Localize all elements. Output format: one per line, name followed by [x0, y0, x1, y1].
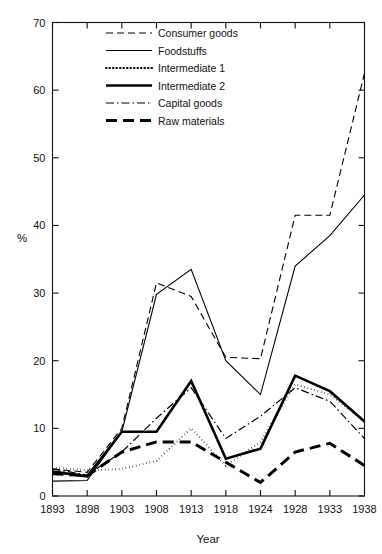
y-tick-label: 0: [39, 490, 45, 502]
x-tick-label: 1893: [40, 503, 64, 515]
x-tick-label: 1933: [318, 503, 342, 515]
x-tick-label: 1908: [144, 503, 168, 515]
x-tick-label: 1903: [110, 503, 134, 515]
y-tick-label: 70: [33, 17, 45, 29]
y-axis-title: %: [17, 232, 27, 244]
y-tick-label: 20: [33, 355, 45, 367]
y-tick-label: 40: [33, 219, 45, 231]
legend-label: Capital goods: [158, 97, 222, 109]
legend-label: Raw materials: [158, 115, 225, 127]
y-tick-label: 10: [33, 422, 45, 434]
legend-label: Foodstuffs: [158, 45, 207, 57]
x-tick-label: 1918: [214, 503, 238, 515]
legend-label: Consumer goods: [158, 27, 238, 39]
chart-figure: 010203040506070 189318981903190819131918…: [0, 0, 382, 554]
x-tick-label: 1928: [283, 503, 307, 515]
x-tick-label: 1938: [352, 503, 376, 515]
x-tick-label: 1898: [75, 503, 99, 515]
x-tick-label: 1913: [179, 503, 203, 515]
y-tick-label: 60: [33, 84, 45, 96]
y-tick-label: 50: [33, 152, 45, 164]
legend-label: Intermediate 2: [158, 80, 225, 92]
legend-label: Intermediate 1: [158, 62, 225, 74]
line-chart-canvas: 010203040506070 189318981903190819131918…: [0, 0, 382, 554]
y-tick-label: 30: [33, 287, 45, 299]
x-tick-label: 1924: [248, 503, 272, 515]
x-axis-title: Year: [196, 533, 219, 545]
